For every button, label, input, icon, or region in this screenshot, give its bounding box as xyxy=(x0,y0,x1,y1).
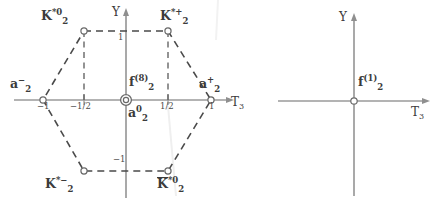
axis-label-sub: 3 xyxy=(419,112,424,121)
state-label-K2starminus: K*−2 xyxy=(45,176,73,193)
axis-label-base: T xyxy=(411,105,419,119)
state-subscript: 2 xyxy=(25,84,31,94)
marker-K2starplus[interactable] xyxy=(165,28,171,34)
state-base: K xyxy=(45,176,56,191)
axis-label-t3-right: T3 xyxy=(411,106,424,121)
state-base: a xyxy=(199,76,207,91)
state-subscript: 2 xyxy=(142,113,148,123)
guide-line-faint-2 xyxy=(216,0,218,40)
state-base: a xyxy=(128,105,136,120)
state-subscript: 2 xyxy=(178,184,184,194)
tick-label-y-pos1: 1 xyxy=(118,33,123,42)
state-subscript: 2 xyxy=(62,16,68,26)
state-superscript: (1) xyxy=(363,73,377,83)
state-superscript: (8) xyxy=(134,73,148,83)
marker-f2singlet[interactable] xyxy=(351,98,357,104)
state-label-K2starbar0: K*02 xyxy=(157,176,184,193)
state-subscript: 2 xyxy=(214,84,220,94)
state-label-K2star0: K*02 xyxy=(41,8,68,25)
singlet-y-axis-arrowhead xyxy=(351,13,357,21)
state-subscript: 2 xyxy=(67,184,73,194)
state-superscript: *0 xyxy=(52,7,62,17)
state-superscript: *0 xyxy=(168,175,178,185)
marker-K2starbar0[interactable] xyxy=(165,168,171,174)
axis-label-t3-left: T3 xyxy=(231,96,244,111)
state-label-a2plus: a+2 xyxy=(199,76,220,93)
state-base: K xyxy=(41,8,52,23)
state-superscript: *− xyxy=(56,175,68,185)
state-subscript: 2 xyxy=(377,82,383,92)
state-label-a2zero: a02 xyxy=(128,105,148,122)
tick-label-x-neg1: −1 xyxy=(37,102,50,111)
state-base: a xyxy=(10,76,18,91)
marker-K2star0[interactable] xyxy=(81,28,87,34)
tick-label-x-pos1: 1 xyxy=(209,102,214,111)
state-base: K xyxy=(160,8,171,23)
axis-label-sub: 3 xyxy=(239,102,244,111)
axis-label-y-left: Y xyxy=(112,6,120,18)
figure-root: K*02 K*+2 K*−2 K*02 a−2 a+2 f(8)2 a02 Y … xyxy=(0,0,447,208)
state-label-a2minus: a−2 xyxy=(10,76,31,93)
marker-origin-inner[interactable] xyxy=(123,97,128,102)
axis-label-y-right: Y xyxy=(339,11,347,23)
state-subscript: 2 xyxy=(148,82,154,92)
state-label-K2starplus: K*+2 xyxy=(160,8,188,25)
state-superscript: *+ xyxy=(171,7,183,17)
singlet-x-axis-arrowhead xyxy=(422,98,430,104)
state-base-overlined: K xyxy=(157,177,168,191)
octet-y-axis-arrowhead xyxy=(123,8,129,16)
tick-label-x-half: 1/2 xyxy=(160,102,174,111)
state-label-f2singlet: f(1)2 xyxy=(358,74,383,91)
state-subscript: 2 xyxy=(182,16,188,26)
state-label-f2octet: f(8)2 xyxy=(129,74,154,91)
marker-K2starminus[interactable] xyxy=(81,168,87,174)
axis-label-base: T xyxy=(231,95,239,109)
tick-label-y-neg1: −1 xyxy=(113,155,126,164)
tick-label-x-neghalf: −1/2 xyxy=(70,102,91,111)
